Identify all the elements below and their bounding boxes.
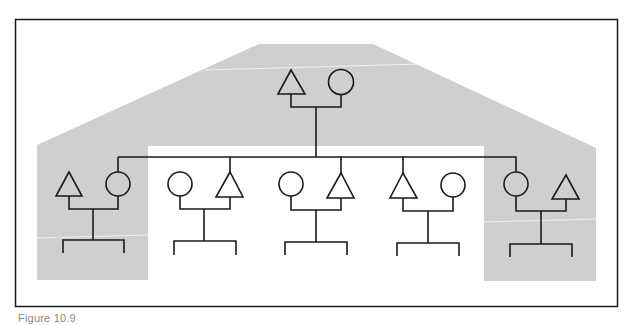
kinship-diagram [0,0,629,325]
figure-caption: Figure 10.9 [18,312,76,324]
